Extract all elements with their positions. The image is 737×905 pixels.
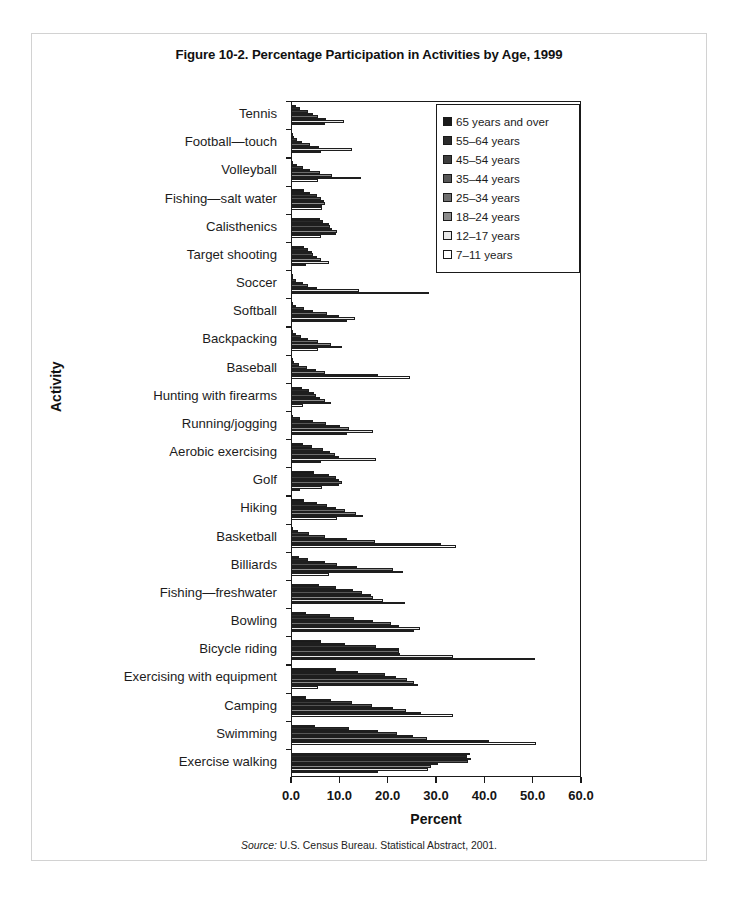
bar (291, 517, 337, 520)
legend-label: 12–17 years (456, 229, 520, 242)
bar-group (291, 608, 581, 636)
legend-item: 45–54 years (443, 150, 579, 169)
bar-group (291, 693, 581, 721)
y-axis-label: Backpacking (202, 332, 277, 346)
legend-swatch-icon (443, 155, 452, 164)
y-axis-tick (286, 214, 292, 215)
y-axis-label: Bowling (231, 614, 277, 628)
bar (291, 207, 322, 210)
legend-item: 7–11 years (443, 245, 579, 264)
y-axis-label: Billiards (231, 558, 277, 572)
y-axis-label: Exercise walking (179, 755, 277, 769)
bar (291, 348, 318, 351)
legend-label: 65 years and over (456, 115, 549, 128)
x-axis-tick (580, 777, 581, 783)
y-axis-tick (286, 693, 292, 694)
y-axis-tick (286, 749, 292, 750)
y-axis-tick (286, 524, 292, 525)
y-axis-tick (286, 129, 292, 130)
y-axis-tick (286, 664, 292, 665)
bar-group (291, 749, 581, 777)
y-axis-label: Football—touch (185, 135, 277, 149)
y-axis-label: Bicycle riding (199, 642, 277, 656)
bar-group (291, 298, 581, 326)
legend-swatch-icon (443, 212, 452, 221)
y-axis-label: Basketball (216, 530, 277, 544)
bar (291, 151, 321, 154)
y-axis-label: Tennis (239, 107, 277, 121)
y-axis-tick (286, 157, 292, 158)
y-axis-category-labels: TennisFootball—touchVolleyballFishing—sa… (60, 101, 285, 777)
y-axis-label: Calisthenics (206, 220, 277, 234)
bar-group (291, 721, 581, 749)
y-axis-tick (286, 326, 292, 327)
bar (291, 461, 321, 464)
y-axis-tick (286, 608, 292, 609)
bar (291, 771, 378, 774)
x-axis-tick (387, 777, 388, 783)
y-axis-tick (286, 270, 292, 271)
y-axis-label: Golf (253, 473, 277, 487)
y-axis-tick (286, 721, 292, 722)
bar (291, 686, 318, 689)
y-axis-tick (286, 298, 292, 299)
bar (291, 658, 535, 661)
y-axis-label: Soccer (236, 276, 277, 290)
source-text: U.S. Census Bureau. Statistical Abstract… (277, 840, 497, 851)
y-axis-label: Fishing—freshwater (160, 586, 277, 600)
y-axis-label: Softball (233, 304, 277, 318)
y-axis-label: Running/jogging (182, 417, 277, 431)
bar-group (291, 270, 581, 298)
y-axis-label: Baseball (226, 361, 277, 375)
bar (291, 433, 347, 436)
chart-container: TennisFootball—touchVolleyballFishing—sa… (0, 0, 737, 905)
bar (291, 123, 325, 126)
legend-label: 45–54 years (456, 153, 520, 166)
legend-label: 35–44 years (456, 172, 520, 185)
bar-group (291, 495, 581, 523)
bar-group (291, 467, 581, 495)
legend-item: 12–17 years (443, 226, 579, 245)
y-axis-tick (286, 411, 292, 412)
y-axis-tick (286, 383, 292, 384)
legend-label: 18–24 years (456, 210, 520, 223)
source-label: Source: (241, 840, 277, 851)
bar-group (291, 636, 581, 664)
bar (291, 573, 329, 576)
y-axis-label: Swimming (216, 727, 277, 741)
bar-group (291, 524, 581, 552)
bar-group (291, 552, 581, 580)
y-axis-label: Hunting with firearms (153, 389, 277, 403)
bar (291, 292, 429, 295)
bar (291, 602, 405, 605)
y-axis-tick (286, 101, 292, 102)
legend: 65 years and over55–64 years45–54 years3… (436, 104, 580, 273)
source-note: Source: U.S. Census Bureau. Statistical … (31, 840, 707, 851)
legend-item: 25–34 years (443, 188, 579, 207)
y-axis-tick (286, 355, 292, 356)
bar (291, 320, 347, 323)
legend-item: 55–64 years (443, 131, 579, 150)
x-axis-tick (435, 777, 436, 783)
bar (291, 742, 536, 745)
bar-group (291, 580, 581, 608)
legend-swatch-icon (443, 117, 452, 126)
legend-item: 65 years and over (443, 112, 579, 131)
x-axis-tick-label: 60.0 (551, 788, 611, 803)
legend-label: 7–11 years (456, 248, 513, 261)
y-axis-label: Aerobic exercising (169, 445, 277, 459)
y-axis-label: Volleyball (221, 163, 277, 177)
x-axis-tick (532, 777, 533, 783)
bar (291, 489, 300, 492)
y-axis-title: Activity (48, 361, 64, 412)
y-axis-label: Camping (224, 699, 277, 713)
y-axis-tick (286, 636, 292, 637)
y-axis-tick (286, 552, 292, 553)
legend-swatch-icon (443, 250, 452, 259)
x-axis-tick (339, 777, 340, 783)
bar (291, 235, 321, 238)
y-axis-label: Fishing—salt water (165, 192, 277, 206)
x-axis-title: Percent (291, 811, 581, 827)
legend-label: 25–34 years (456, 191, 520, 204)
bar (291, 714, 453, 717)
